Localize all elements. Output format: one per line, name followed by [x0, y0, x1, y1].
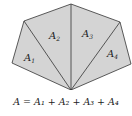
- polygon-diagram: A1 A2 A3 A4: [0, 0, 132, 90]
- polygon: [12, 4, 131, 90]
- area-formula: A = A₁ + A₂ + A₃ + A₄: [0, 96, 132, 107]
